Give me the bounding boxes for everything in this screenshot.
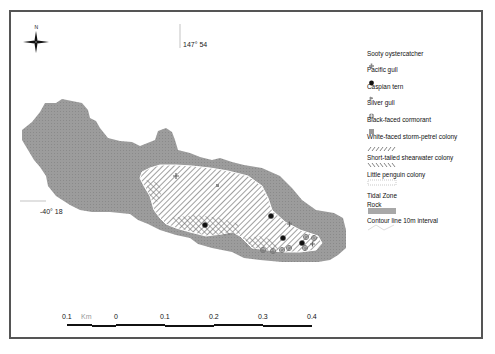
legend-label-rock: Rock xyxy=(367,201,382,209)
scale-label-01: 0.1 xyxy=(160,313,170,320)
compass-rose-icon: N xyxy=(23,24,49,53)
contour-line-icon xyxy=(368,225,394,230)
black-faced-cormorant-markers xyxy=(216,184,219,187)
scale-label-03: 0.3 xyxy=(258,313,268,320)
latitude-label: -40° 18 xyxy=(40,208,63,215)
forward-hatch-icon xyxy=(368,147,395,151)
scale-label-02: 0.2 xyxy=(209,313,219,320)
scale-label-neg: 0.1 xyxy=(62,313,72,320)
dotted-fill-icon xyxy=(368,180,396,185)
legend-label-storm-petrel: White-faced storm-petrel colony xyxy=(367,133,457,141)
legend-label-caspian-tern: Caspian tern xyxy=(367,83,403,91)
back-hatch-icon xyxy=(368,163,395,167)
scale-unit: Km xyxy=(81,313,92,320)
legend-label-tidal-zone: Tidal Zone xyxy=(367,192,397,200)
scale-label-04: 0.4 xyxy=(307,313,317,320)
scale-bar[interactable] xyxy=(67,324,312,327)
longitude-label: 147° 54 xyxy=(183,41,207,48)
legend-label-sooty-oystercatcher: Sooty oystercatcher xyxy=(367,50,423,58)
legend-label-black-faced-cormorant: Black-faced cormorant xyxy=(367,116,431,124)
legend-label-silver-gull: Silver gull xyxy=(367,99,395,107)
north-label: N xyxy=(35,24,39,30)
legend-label-contour-line: Contour line 10m interval xyxy=(367,217,438,225)
legend-label-little-penguin: Little penguin colony xyxy=(367,171,425,179)
legend-label-pacific-gull: Pacific gull xyxy=(367,66,398,74)
scale-label-0: 0 xyxy=(114,313,118,320)
legend-label-shearwater: Short-tailed shearwater colony xyxy=(367,154,453,162)
